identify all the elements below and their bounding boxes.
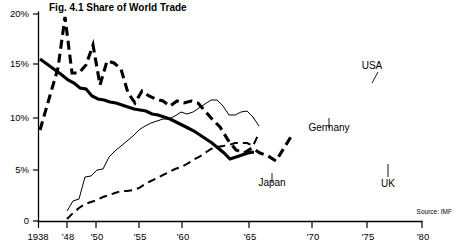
y-tick-label-20: 20% (10, 8, 30, 19)
source-note: Source: IMF (417, 208, 452, 215)
y-tick-label-10: 10% (10, 112, 30, 123)
y-tick-label-0: 0 (24, 215, 29, 226)
leader-line-usa (372, 72, 378, 83)
chart-title: Fig. 4.1 Share of World Trade (49, 2, 187, 13)
line-chart-canvas: Fig. 4.1 Share of World Trade 20% 15% 10… (0, 0, 461, 250)
y-tick-label-15: 15% (10, 58, 30, 69)
x-tick-label-65: '65 (244, 231, 256, 242)
series-line-japan (67, 133, 259, 219)
x-axis-ticks (39, 222, 423, 229)
x-tick-label-75: '75 (362, 231, 374, 242)
series-label-japan: Japan (258, 177, 285, 188)
figure-share-of-world-trade: Fig. 4.1 Share of World Trade 20% 15% 10… (0, 0, 461, 250)
series-line-usa (40, 17, 292, 161)
x-tick-label-80: '80 (417, 231, 429, 242)
x-tick-label-50: '50 (91, 231, 103, 242)
x-tick-label-70: '70 (307, 231, 319, 242)
x-tick-label-60: '60 (177, 231, 189, 242)
series-label-uk: UK (381, 178, 395, 189)
x-tick-label-48: '48 (62, 231, 74, 242)
series-label-germany: Germany (308, 122, 349, 133)
y-tick-label-5: 5% (15, 164, 29, 175)
series-label-usa: USA (362, 60, 383, 71)
x-tick-label-55: '55 (134, 231, 146, 242)
x-tick-label-1938: 1938 (27, 231, 48, 242)
y-axis-ticks (33, 14, 39, 221)
